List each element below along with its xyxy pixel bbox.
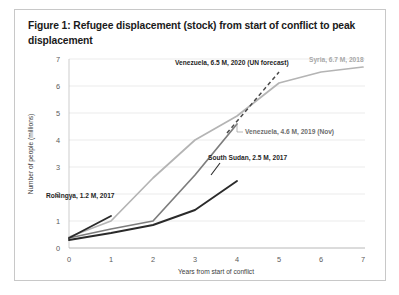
chart-plot-area: 7 6 5 4 3 2 1 0 0 1 2 3 4 5 6 7 Years fr… [15, 10, 387, 282]
leader-venezuela [237, 124, 243, 132]
line-chart: 7 6 5 4 3 2 1 0 0 1 2 3 4 5 6 7 Years fr… [15, 10, 387, 282]
x-tick-label: 6 [319, 255, 323, 264]
y-tick-label: 3 [56, 163, 60, 172]
y-tick-label: 1 [56, 217, 60, 226]
x-tick-label: 3 [193, 255, 197, 264]
annotation-leaders [237, 124, 243, 132]
series-line-syria [69, 67, 363, 237]
syria-label: Syria, 6.7 M, 2018 [309, 56, 364, 64]
x-tick-label: 5 [277, 255, 281, 264]
y-tick-label: 5 [56, 109, 60, 118]
series-line-south-sudan [69, 181, 237, 240]
x-axis-title: Years from start of conflict [178, 268, 254, 275]
y-tick-label: 0 [56, 244, 60, 253]
x-tick-label: 4 [235, 255, 239, 264]
x-tick-label: 2 [151, 255, 155, 264]
y-tick-label: 4 [56, 136, 60, 145]
venezuela-forecast-label: Venezuela, 6.5 M, 2020 (UN forecast) [175, 59, 289, 67]
south-sudan-label: South Sudan, 2.5 M, 2017 [208, 154, 287, 162]
x-tick-label: 7 [361, 255, 365, 264]
x-tick-label: 0 [67, 255, 71, 264]
x-tick-label: 1 [109, 255, 113, 264]
y-axis-title: Number of people (millions) [27, 114, 35, 195]
y-tick-label: 7 [56, 55, 60, 64]
y-tick-label: 6 [56, 82, 60, 91]
figure-card: Figure 1: Refugee displacement (stock) f… [14, 9, 386, 281]
rohingya-label: Rohingya, 1.2 M, 2017 [46, 192, 115, 200]
leader-south-sudan [211, 163, 220, 175]
venezuela-label: Venezuela, 4.6 M, 2019 (Nov) [245, 128, 334, 136]
